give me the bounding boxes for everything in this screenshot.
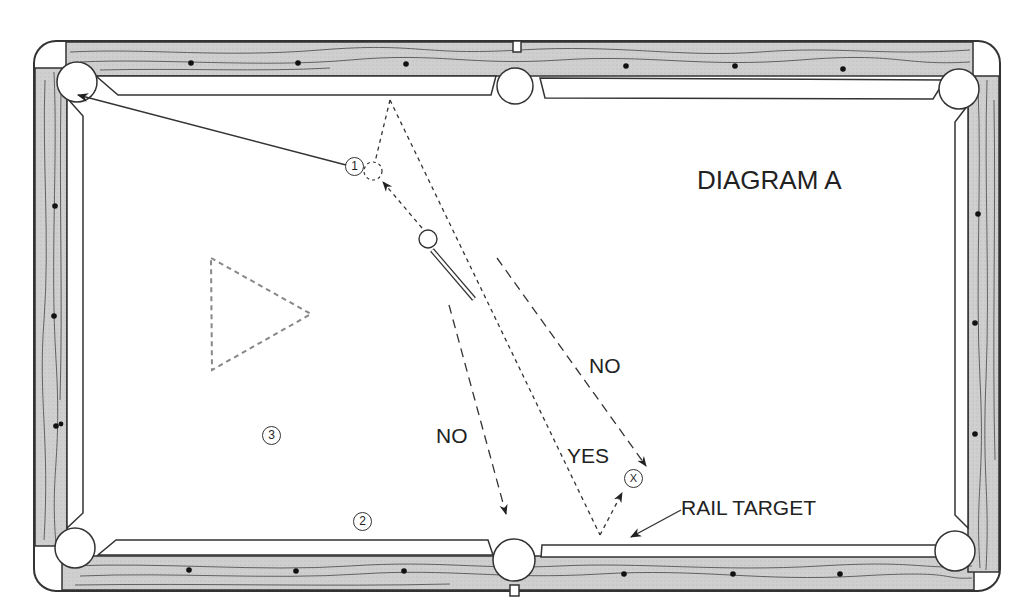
- cushion-top-right: [540, 78, 945, 99]
- object-ball-1: 1: [345, 157, 364, 176]
- cushion-bottom-right: [541, 545, 950, 557]
- pocket-bottom-left: [55, 528, 95, 568]
- label-rail-target: RAIL TARGET: [681, 497, 816, 518]
- table-frame: [34, 41, 1000, 591]
- object-ball-3: 3: [262, 426, 281, 445]
- pocket-top-middle: [497, 68, 533, 104]
- cushion-left: [67, 98, 83, 528]
- target-position-x: X: [624, 469, 643, 488]
- label-no-upper: NO: [589, 355, 621, 376]
- label-no-lower: NO: [436, 425, 468, 446]
- cushion-bottom-left: [98, 540, 493, 555]
- pocket-bottom-middle: [493, 539, 535, 581]
- pool-table-diagram: [0, 0, 1031, 616]
- pocket-bottom-right: [935, 531, 975, 571]
- label-yes: YES: [567, 445, 609, 466]
- pocket-top-left: [57, 62, 97, 102]
- pocket-top-right: [939, 69, 979, 109]
- cushion-right: [955, 105, 968, 528]
- cushion-top-left: [96, 76, 496, 95]
- left-rail: [35, 68, 67, 546]
- diagram-title: DIAGRAM A: [697, 167, 841, 193]
- object-ball-2: 2: [353, 512, 372, 531]
- cue-ball: [419, 230, 437, 248]
